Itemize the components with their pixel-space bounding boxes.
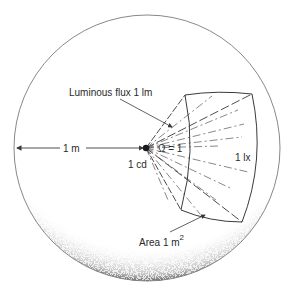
illuminance-label: 1 lx bbox=[235, 152, 251, 163]
area-label-exponent: 2 bbox=[180, 233, 185, 242]
distance-label: 1 m bbox=[63, 143, 80, 154]
point-source-icon bbox=[143, 145, 149, 151]
solid-angle-label: Ω = 1 bbox=[158, 143, 183, 154]
luminous-flux-pointer bbox=[120, 99, 172, 127]
photometry-diagram: 1 m 1 cd Ω = 1 1 lx Luminous flux 1 lm A… bbox=[0, 0, 294, 289]
luminous-flux-label: Luminous flux 1 lm bbox=[69, 87, 152, 98]
intensity-label: 1 cd bbox=[128, 159, 147, 170]
area-label-text: Area 1 m bbox=[139, 237, 180, 248]
